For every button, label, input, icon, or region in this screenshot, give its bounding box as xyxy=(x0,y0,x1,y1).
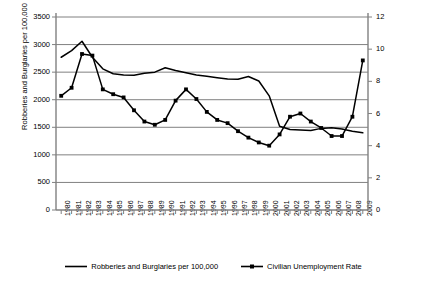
data-point-marker xyxy=(288,115,292,119)
data-point-marker xyxy=(226,121,230,125)
legend-label: Civilian Unemployment Rate xyxy=(267,262,362,271)
data-point-marker xyxy=(340,134,344,138)
data-point-marker xyxy=(361,59,365,63)
data-point-marker xyxy=(80,52,84,56)
data-point-marker xyxy=(205,110,209,114)
legend-line-icon xyxy=(64,262,88,271)
legend-item[interactable]: Robberies and Burglaries per 100,000 xyxy=(64,262,218,271)
data-point-marker xyxy=(267,144,271,148)
data-point-marker xyxy=(111,92,115,96)
data-point-marker xyxy=(330,134,334,138)
data-point-marker xyxy=(143,120,147,124)
data-point-marker xyxy=(70,86,74,90)
plot-area xyxy=(0,0,426,281)
legend-line-square-icon xyxy=(240,262,264,271)
data-point-marker xyxy=(153,123,157,127)
data-point-marker xyxy=(319,126,323,130)
data-point-marker xyxy=(184,87,188,91)
data-point-marker xyxy=(278,133,282,137)
data-point-marker xyxy=(215,118,219,122)
data-point-marker xyxy=(174,99,178,103)
data-point-marker xyxy=(299,112,303,116)
chart-legend: Robberies and Burglaries per 100,000Civi… xyxy=(0,262,426,271)
data-point-marker xyxy=(122,96,126,100)
data-point-marker xyxy=(236,129,240,133)
chart-container: Robberies and Burglaries per 100,000 Per… xyxy=(0,0,426,281)
legend-label: Robberies and Burglaries per 100,000 xyxy=(91,262,218,271)
data-point-marker xyxy=(132,108,136,112)
data-point-marker xyxy=(101,87,105,91)
data-point-marker xyxy=(257,141,261,145)
data-point-marker xyxy=(351,115,355,119)
data-point-marker xyxy=(247,136,251,140)
data-point-marker xyxy=(309,120,313,124)
data-point-marker xyxy=(163,118,167,122)
data-point-marker xyxy=(91,54,95,58)
data-point-marker xyxy=(59,94,63,98)
series-line xyxy=(61,41,363,133)
data-point-marker xyxy=(195,97,199,101)
legend-item[interactable]: Civilian Unemployment Rate xyxy=(240,262,362,271)
